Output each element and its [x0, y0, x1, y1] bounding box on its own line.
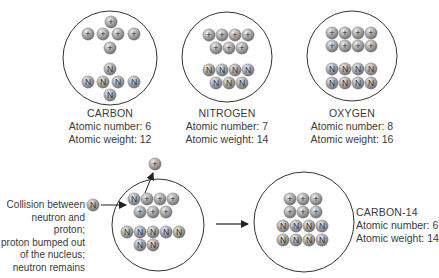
carbon-14-label: CARBON-14 Atomic number: 6 Atomic weight… [356, 206, 439, 245]
neutron-symbol: N [107, 90, 113, 100]
neutron-symbol: N [90, 200, 96, 210]
neutron-ball: N [277, 234, 289, 246]
proton-symbol: + [107, 43, 112, 53]
neutron-symbol: N [232, 65, 238, 75]
neutron-symbol: N [319, 235, 325, 245]
neutron-ball: N [97, 76, 109, 88]
proton-symbol: + [329, 41, 334, 51]
neutron-symbol: N [329, 78, 335, 88]
proton-symbol: + [115, 29, 120, 39]
collision-note-line: neutron and proton; [0, 212, 85, 237]
oxygen-name: OXYGEN [311, 107, 394, 120]
neutron-ball: N [339, 63, 351, 75]
nitrogen-atomic-weight: Atomic weight: 14 [186, 133, 269, 146]
neutron-ball: N [134, 226, 146, 238]
proton-symbol: + [239, 43, 244, 53]
collision-nucleus-boundary [112, 179, 204, 271]
neutron-symbol: N [226, 78, 232, 88]
proton-symbol: + [245, 30, 250, 40]
neutron-ball: N [128, 76, 140, 88]
neutron-ball: N [326, 63, 338, 75]
neutron-ball: N [82, 76, 94, 88]
proton-ball: + [216, 29, 228, 41]
proton-ball: + [147, 206, 159, 218]
neutron-symbol: N [368, 78, 374, 88]
proton-symbol: + [163, 207, 168, 217]
proton-symbol: + [206, 30, 211, 40]
neutron-ball: N [134, 239, 146, 251]
oxygen-label: OXYGEN Atomic number: 8 Atomic weight: 1… [311, 107, 394, 146]
neutron-ball: N [147, 239, 159, 251]
collision-note-line: of the nucleus; [0, 249, 85, 262]
oxygen-nucleus-boundary [307, 11, 397, 101]
proton-ball: + [284, 193, 296, 205]
neutron-ball: N [87, 199, 99, 211]
neutron-ball: N [242, 64, 254, 76]
proton-symbol: + [226, 43, 231, 53]
neutron-symbol: N [137, 227, 143, 237]
proton-symbol: + [368, 41, 373, 51]
nitrogen-label: NITROGEN Atomic number: 7 Atomic weight:… [186, 107, 269, 146]
ejected-proton-arrow [145, 173, 153, 193]
neutron-symbol: N [131, 194, 137, 204]
proton-symbol: + [342, 28, 347, 38]
nitrogen-name: NITROGEN [186, 107, 269, 120]
neutron-ball: N [121, 226, 133, 238]
proton-symbol: + [144, 194, 149, 204]
proton-ball: + [310, 206, 322, 218]
neutron-ball: N [147, 226, 159, 238]
proton-ball: + [352, 40, 364, 52]
proton-ball: + [223, 42, 235, 54]
neutron-ball: N [290, 234, 302, 246]
neutron-ball: N [339, 77, 351, 89]
neutron-ball: N [365, 63, 377, 75]
neutron-symbol: N [319, 221, 325, 231]
proton-ball: + [297, 193, 309, 205]
proton-symbol: + [108, 17, 113, 27]
neutron-ball: N [352, 77, 364, 89]
neutron-symbol: N [85, 77, 91, 87]
collision-note-line: neutron remains [0, 262, 85, 275]
neutron-ball: N [316, 234, 328, 246]
proton-ball: + [104, 42, 116, 54]
proton-ball: + [365, 27, 377, 39]
proton-symbol: + [355, 28, 360, 38]
proton-ball: + [128, 28, 140, 40]
proton-ball: + [326, 40, 338, 52]
proton-ball: + [167, 193, 179, 205]
proton-symbol: + [287, 194, 292, 204]
carbon-14-atomic-weight: Atomic weight: 14 [356, 232, 439, 245]
proton-ball: + [326, 27, 338, 39]
proton-ball: + [339, 27, 351, 39]
proton-symbol: + [313, 207, 318, 217]
proton-symbol: + [287, 207, 292, 217]
neutron-symbol: N [137, 240, 143, 250]
neutron-ball: N [229, 64, 241, 76]
proton-ball: + [154, 193, 166, 205]
carbon-14-atomic-number: Atomic number: 6 [356, 219, 439, 232]
nitrogen-atom: +++++++NNNNNNN [182, 12, 272, 102]
proton-ball: + [134, 206, 146, 218]
carbon-atomic-weight: Atomic weight: 12 [69, 133, 152, 146]
neutron-symbol: N [115, 77, 121, 87]
proton-ball: + [82, 28, 94, 40]
oxygen-atomic-weight: Atomic weight: 16 [311, 133, 394, 146]
neutron-ball: N [316, 220, 328, 232]
neutron-ball: N [303, 220, 315, 232]
proton-symbol: + [232, 30, 237, 40]
proton-ball: + [149, 158, 161, 170]
proton-ball: + [203, 29, 215, 41]
proton-symbol: + [100, 29, 105, 39]
proton-ball: + [242, 29, 254, 41]
neutron-ball: N [160, 226, 172, 238]
proton-symbol: + [329, 28, 334, 38]
proton-ball: + [229, 29, 241, 41]
neutron-symbol: N [150, 227, 156, 237]
neutron-symbol: N [293, 221, 299, 231]
neutron-symbol: N [342, 64, 348, 74]
proton-ball: + [210, 42, 222, 54]
proton-ball: + [352, 27, 364, 39]
neutron-symbol: N [306, 221, 312, 231]
proton-ball: + [284, 206, 296, 218]
proton-ball: + [112, 28, 124, 40]
